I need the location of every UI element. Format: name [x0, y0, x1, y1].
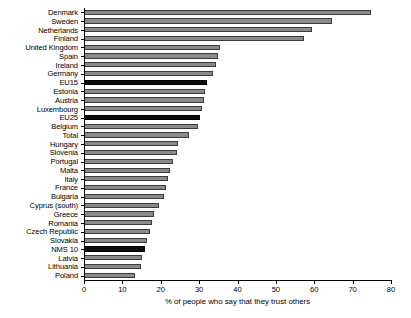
x-axis-tick-label: 80: [387, 285, 395, 294]
bar: [84, 71, 213, 76]
x-axis-tick: [276, 280, 277, 284]
y-axis-tick: [81, 249, 84, 250]
x-axis-tick: [161, 280, 162, 284]
y-axis-tick: [81, 118, 84, 119]
bar-rows: [84, 8, 391, 280]
x-axis-tick-label: 10: [118, 285, 126, 294]
bar: [84, 273, 135, 278]
y-axis-tick: [81, 56, 84, 57]
bar: [84, 185, 166, 190]
bar: [84, 97, 204, 102]
bar-chart: DenmarkSwedenNetherlandsFinlandUnited Ki…: [0, 0, 411, 318]
bar: [84, 141, 178, 146]
bar: [84, 36, 304, 41]
y-axis-tick: [81, 91, 84, 92]
y-axis-tick: [81, 232, 84, 233]
bar: [84, 53, 218, 58]
x-axis-tick: [122, 280, 123, 284]
x-axis-tick: [391, 280, 392, 284]
x-axis-tick-label: 0: [82, 285, 86, 294]
bar: [84, 203, 159, 208]
bar: [84, 80, 207, 85]
x-axis-tick-label: 60: [310, 285, 318, 294]
y-axis-tick: [81, 258, 84, 259]
bar: [84, 89, 205, 94]
x-axis-tick: [84, 280, 85, 284]
y-axis-tick: [81, 144, 84, 145]
y-axis-tick: [81, 170, 84, 171]
x-axis-tick-label: 70: [348, 285, 356, 294]
bar: [84, 246, 145, 251]
y-axis-tick: [81, 241, 84, 242]
x-axis-tick-label: 50: [272, 285, 280, 294]
bar: [84, 150, 177, 155]
bar: [84, 255, 142, 260]
bar: [84, 220, 152, 225]
y-axis-tick: [81, 74, 84, 75]
bar: [84, 27, 312, 32]
y-axis-tick: [81, 267, 84, 268]
y-axis-tick: [81, 39, 84, 40]
x-axis-tick: [314, 280, 315, 284]
x-axis-tick-label: 30: [195, 285, 203, 294]
y-axis-tick: [81, 30, 84, 31]
y-axis-tick: [81, 126, 84, 127]
category-label: Poland: [55, 271, 78, 280]
bar: [84, 194, 164, 199]
bar: [84, 264, 141, 269]
bar: [84, 18, 332, 23]
y-axis-tick: [81, 179, 84, 180]
bar: [84, 62, 216, 67]
x-axis-tick: [199, 280, 200, 284]
bar: [84, 238, 147, 243]
y-axis-tick: [81, 223, 84, 224]
y-axis-tick: [81, 47, 84, 48]
x-axis-line: 01020304050607080: [84, 280, 391, 281]
y-axis-tick: [81, 214, 84, 215]
bar: [84, 211, 154, 216]
bar: [84, 168, 170, 173]
y-axis-tick: [81, 205, 84, 206]
x-axis-tick-label: 40: [233, 285, 241, 294]
y-axis-tick: [81, 197, 84, 198]
y-axis-tick: [81, 83, 84, 84]
y-axis-tick: [81, 21, 84, 22]
bar: [84, 229, 150, 234]
bar: [84, 115, 200, 120]
y-axis-tick: [81, 276, 84, 277]
y-axis-tick: [81, 100, 84, 101]
bar: [84, 124, 198, 129]
x-axis-tick-label: 20: [157, 285, 165, 294]
y-axis-line: [84, 8, 85, 280]
bar: [84, 106, 202, 111]
bar: [84, 45, 220, 50]
bar: [84, 159, 173, 164]
x-axis-title: % of people who say that they trust othe…: [84, 297, 391, 306]
x-axis-tick: [238, 280, 239, 284]
y-axis-tick: [81, 109, 84, 110]
bar: [84, 10, 371, 15]
y-axis-tick: [81, 65, 84, 66]
bar: [84, 176, 168, 181]
y-axis-tick: [81, 153, 84, 154]
bar: [84, 132, 189, 137]
y-axis-tick: [81, 12, 84, 13]
x-axis-tick: [353, 280, 354, 284]
plot-area: [84, 8, 391, 280]
y-axis-tick: [81, 135, 84, 136]
y-axis-tick: [81, 162, 84, 163]
y-axis-tick: [81, 188, 84, 189]
category-axis-labels: DenmarkSwedenNetherlandsFinlandUnited Ki…: [0, 8, 82, 280]
